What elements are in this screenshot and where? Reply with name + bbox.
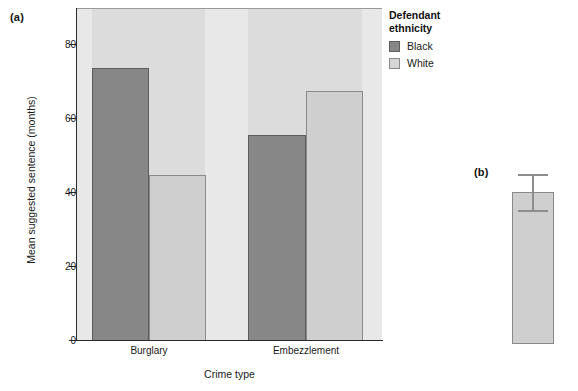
y-axis-line [76,8,77,341]
y-tick-label-80: 80 [24,39,76,50]
bar-burglary-white [149,175,206,341]
group-gap-right [362,9,382,340]
error-bar-stem [532,175,534,212]
x-axis-line [76,340,383,341]
panel-a-label: (a) [10,11,24,23]
y-axis-title: Mean suggested sentence (months) [25,80,37,280]
panel-b [440,0,578,391]
group-gap-left [77,9,92,340]
legend-swatch-black-icon [389,41,400,52]
error-bar-lower-cap [518,210,548,212]
bar-burglary-black [92,68,149,341]
group-gap-middle [205,9,248,340]
legend-label-black: Black [407,40,433,52]
bar-b-single [512,192,554,344]
figure-container: (a) 0 20 40 60 [0,0,578,391]
y-tick-label-0: 0 [24,335,76,346]
panel-b-label: (b) [474,166,489,178]
bar-embezzlement-black [248,135,306,341]
bar-embezzlement-white [306,91,363,341]
panel-a: (a) 0 20 40 60 [0,0,400,391]
x-tick-label-burglary: Burglary [130,345,167,356]
x-axis-title: Crime type [76,368,383,380]
x-tick-label-embezzlement: Embezzlement [273,345,339,356]
legend-label-white: White [407,57,434,69]
legend-swatch-white-icon [389,58,400,69]
